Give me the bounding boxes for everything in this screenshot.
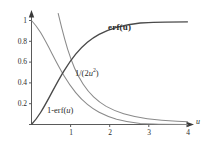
one-minus-erf-prefix: 1-erf( <box>47 105 66 115</box>
y-axis-arrow-icon <box>29 10 34 18</box>
y-tick-label-1: 1 <box>8 17 27 25</box>
y-axis <box>29 10 34 125</box>
curve-label-one-minus-erf: 1-erf(u) <box>47 106 73 115</box>
y-tick-label-0-8: 0.8 <box>4 38 27 46</box>
x-tick-label-1: 1 <box>63 129 79 137</box>
y-tick-label-0-2: 0.2 <box>4 100 27 108</box>
curve-label-inverse-two-u-squared: 1/(2u2) <box>75 69 99 78</box>
chart-canvas <box>0 0 208 145</box>
y-tick-label-0-4: 0.4 <box>4 79 27 87</box>
x-axis-label: u <box>196 118 200 126</box>
chart-figure: 1 0.8 0.6 0.4 0.2 1 2 3 4 erf(u) 1/(2u2)… <box>0 0 208 145</box>
x-tick-label-3: 3 <box>141 129 157 137</box>
one-minus-erf-suffix: ) <box>71 105 74 115</box>
inv-label-prefix: 1/(2 <box>75 68 89 78</box>
curve-label-erf: erf(u) <box>108 23 131 32</box>
y-tick-label-0-6: 0.6 <box>4 58 27 66</box>
x-tick-label-2: 2 <box>102 129 118 137</box>
inv-label-suffix: ) <box>96 68 99 78</box>
x-tick-label-4: 4 <box>180 129 196 137</box>
